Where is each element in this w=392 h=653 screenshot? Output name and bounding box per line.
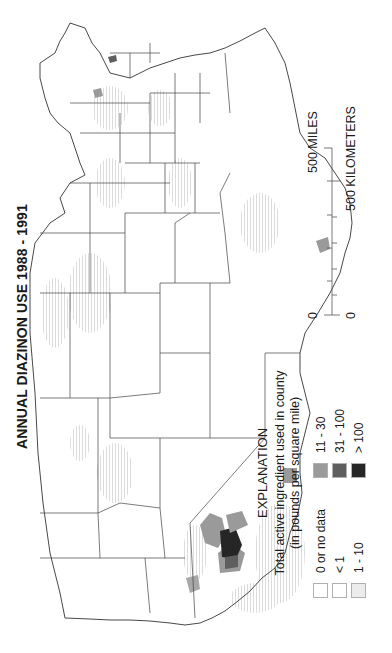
legend-swatch <box>313 583 328 598</box>
legend-label: 31 - 100 <box>333 409 347 453</box>
legend-item-gt100: > 100 <box>351 358 366 478</box>
legend-description-line1: Total active ingredient used in county <box>273 348 288 598</box>
legend-items: 0 or no data 11 - 30 < 1 31 - 100 1 - 10… <box>313 348 366 598</box>
legend: EXPLANATION Total active ingredient used… <box>255 348 366 598</box>
legend-swatch <box>313 463 328 478</box>
legend-label: < 1 <box>333 556 347 573</box>
legend-item-1-10: 1 - 10 <box>351 478 366 598</box>
legend-item-11-30: 11 - 30 <box>313 358 328 478</box>
legend-swatch <box>351 463 366 478</box>
map-figure: ANNUAL DIAZINON USE 1988 - 1991 <box>0 0 392 653</box>
legend-label: 1 - 10 <box>352 542 366 573</box>
legend-label: > 100 <box>352 423 366 453</box>
legend-swatch <box>332 583 347 598</box>
legend-item-lt1: < 1 <box>332 478 347 598</box>
legend-label: 0 or no data <box>314 509 328 573</box>
legend-swatch <box>351 583 366 598</box>
legend-description: Total active ingredient used in county (… <box>273 348 303 598</box>
legend-description-line2: (in pounds per square mile) <box>288 348 303 598</box>
legend-heading: EXPLANATION <box>255 348 270 598</box>
legend-label: 11 - 30 <box>314 417 328 453</box>
legend-swatch <box>332 463 347 478</box>
legend-item-none: 0 or no data <box>313 478 328 598</box>
legend-item-31-100: 31 - 100 <box>332 358 347 478</box>
